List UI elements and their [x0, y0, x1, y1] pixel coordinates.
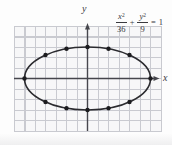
- x-axis-arrow-icon: [154, 76, 160, 81]
- data-point: [85, 45, 89, 49]
- data-point: [43, 53, 47, 57]
- term1-exponent: 2: [122, 12, 125, 18]
- equation-term1: x2 36: [116, 11, 127, 33]
- equation: x2 36 + y2 9 = 1: [116, 11, 163, 33]
- graph-page: y x x2 36 + y2 9 = 1: [0, 0, 172, 145]
- equals-sign: =: [150, 18, 157, 27]
- y-axis-label: y: [82, 4, 86, 14]
- term1-numerator: x2: [116, 11, 127, 23]
- equation-term2: y2 9: [137, 11, 148, 33]
- data-point: [106, 47, 110, 51]
- plus-operator: +: [129, 18, 136, 27]
- x-axis-label: x: [163, 73, 167, 83]
- data-point: [64, 47, 68, 51]
- data-point: [43, 100, 47, 104]
- term2-denominator: 9: [137, 23, 148, 33]
- rhs-value: 1: [159, 18, 163, 27]
- data-point: [127, 53, 131, 57]
- data-point: [127, 100, 131, 104]
- data-point: [148, 76, 152, 80]
- data-point: [106, 106, 110, 110]
- data-point: [85, 108, 89, 112]
- y-axis-arrow-icon: [85, 23, 90, 30]
- term2-exponent: 2: [143, 12, 146, 18]
- term2-numerator: y2: [137, 11, 148, 23]
- data-point: [22, 76, 26, 80]
- data-point: [64, 106, 68, 110]
- term1-denominator: 36: [116, 23, 127, 33]
